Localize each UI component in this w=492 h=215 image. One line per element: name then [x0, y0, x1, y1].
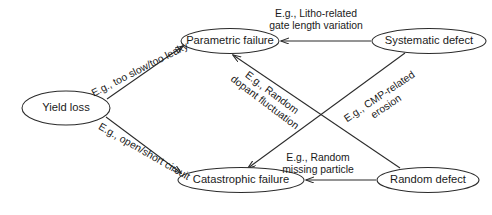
diagram-canvas: Yield lossParametric failureSystematic d… [0, 0, 492, 215]
edge-label-random-to-catastrophic: E.g., Randommissing particle [282, 152, 354, 175]
edge-label-line: E.g., Random [286, 152, 350, 163]
edge-label-line: E.g., too slow/too leaky [90, 40, 191, 99]
node-parametric-failure[interactable]: Parametric failure [181, 29, 279, 54]
edge-label-yield-to-parametric: E.g., too slow/too leaky [90, 40, 191, 99]
node-label-catastrophic-failure: Catastrophic failure [193, 173, 289, 185]
node-systematic-defect[interactable]: Systematic defect [372, 29, 486, 54]
node-label-random-defect: Random defect [390, 173, 467, 185]
node-label-parametric-failure: Parametric failure [186, 34, 274, 46]
edge-label-line: missing particle [282, 164, 354, 175]
edge-label-systematic-to-catastrophic: E.g., CMP-relatederosion [342, 69, 424, 134]
node-label-systematic-defect: Systematic defect [385, 34, 474, 46]
edge-label-yield-to-catastrophic: E.g., open/short circuit [97, 121, 192, 182]
edge-label-line: E.g., Litho-related [275, 8, 357, 19]
node-label-yield-loss: Yield loss [42, 101, 90, 113]
nodes-layer: Yield lossParametric failureSystematic d… [22, 29, 486, 193]
yield-loss-diagram: Yield lossParametric failureSystematic d… [0, 0, 492, 215]
node-random-defect[interactable]: Random defect [377, 168, 479, 193]
edge-label-line: E.g., open/short circuit [97, 121, 192, 182]
edge-label-line: gate length variation [269, 20, 363, 31]
edge-label-systematic-to-parametric: E.g., Litho-relatedgate length variation [269, 8, 363, 31]
